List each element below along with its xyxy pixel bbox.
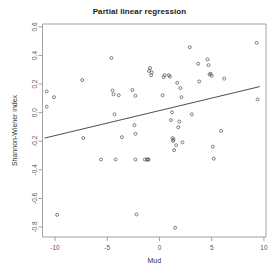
data-point: [223, 77, 226, 80]
y-tick-label: -0.6: [31, 192, 38, 204]
y-axis-label: Shannon-Wiener index: [11, 94, 18, 166]
y-tick-label: -0.2: [31, 135, 38, 147]
data-point: [113, 113, 116, 116]
y-tick-label: 0.4: [31, 51, 38, 60]
data-point: [180, 96, 183, 99]
data-point: [190, 113, 193, 116]
x-axis-label: Mud: [147, 257, 161, 264]
data-point: [56, 213, 59, 216]
data-point: [175, 144, 178, 147]
data-point: [112, 93, 115, 96]
data-point: [134, 94, 137, 97]
y-tick-label: -0.8: [31, 221, 38, 233]
data-point: [131, 89, 134, 92]
data-point: [197, 62, 200, 65]
data-point: [211, 145, 214, 148]
data-point: [134, 132, 137, 135]
x-tick-label: 0: [158, 244, 162, 251]
y-tick-label: -0.4: [31, 164, 38, 176]
data-point: [135, 213, 138, 216]
data-point: [173, 149, 176, 152]
data-point: [181, 141, 184, 144]
data-point: [82, 137, 85, 140]
y-axis-ticks: 0.60.40.20.0-0.2-0.4-0.6-0.8: [31, 22, 43, 233]
data-point: [212, 157, 215, 160]
y-tick-label: 0.2: [31, 79, 38, 88]
data-point: [220, 129, 223, 132]
data-point: [179, 87, 182, 90]
x-tick-label: 5: [210, 244, 214, 251]
data-point: [255, 41, 258, 44]
data-point: [99, 158, 102, 161]
data-point: [52, 96, 55, 99]
data-point: [198, 80, 201, 83]
data-point: [206, 58, 209, 61]
data-point: [178, 120, 181, 123]
y-tick-label: 0.6: [31, 22, 38, 31]
data-point: [177, 126, 180, 129]
data-point: [169, 119, 172, 122]
data-point: [256, 98, 259, 101]
data-point: [161, 94, 164, 97]
data-point: [174, 226, 177, 229]
scatter-points: [45, 41, 259, 229]
x-tick-label: -5: [104, 244, 110, 251]
regression-line: [45, 87, 260, 138]
data-point: [81, 79, 84, 82]
y-tick-label: 0.0: [31, 108, 38, 117]
data-point: [110, 57, 113, 60]
data-point: [171, 111, 174, 114]
data-point: [45, 105, 48, 108]
data-point: [45, 90, 48, 93]
data-point: [111, 89, 114, 92]
data-point: [149, 67, 152, 70]
x-axis-ticks: -10-50510: [50, 237, 268, 251]
data-point: [188, 46, 191, 49]
x-tick-label: -10: [50, 244, 60, 251]
data-point: [134, 158, 137, 161]
x-tick-label: 10: [260, 244, 268, 251]
data-point: [114, 158, 117, 161]
data-point: [133, 124, 136, 127]
data-point: [207, 64, 210, 67]
partial-linear-regression-chart: Partial linear regression -10-50510 0.60…: [0, 0, 279, 274]
data-point: [120, 136, 123, 139]
data-point: [176, 81, 179, 84]
data-point: [150, 71, 153, 74]
data-point: [117, 94, 120, 97]
plot-canvas: -10-50510 0.60.40.20.0-0.2-0.4-0.6-0.8 M…: [0, 0, 279, 274]
data-point: [150, 74, 153, 77]
